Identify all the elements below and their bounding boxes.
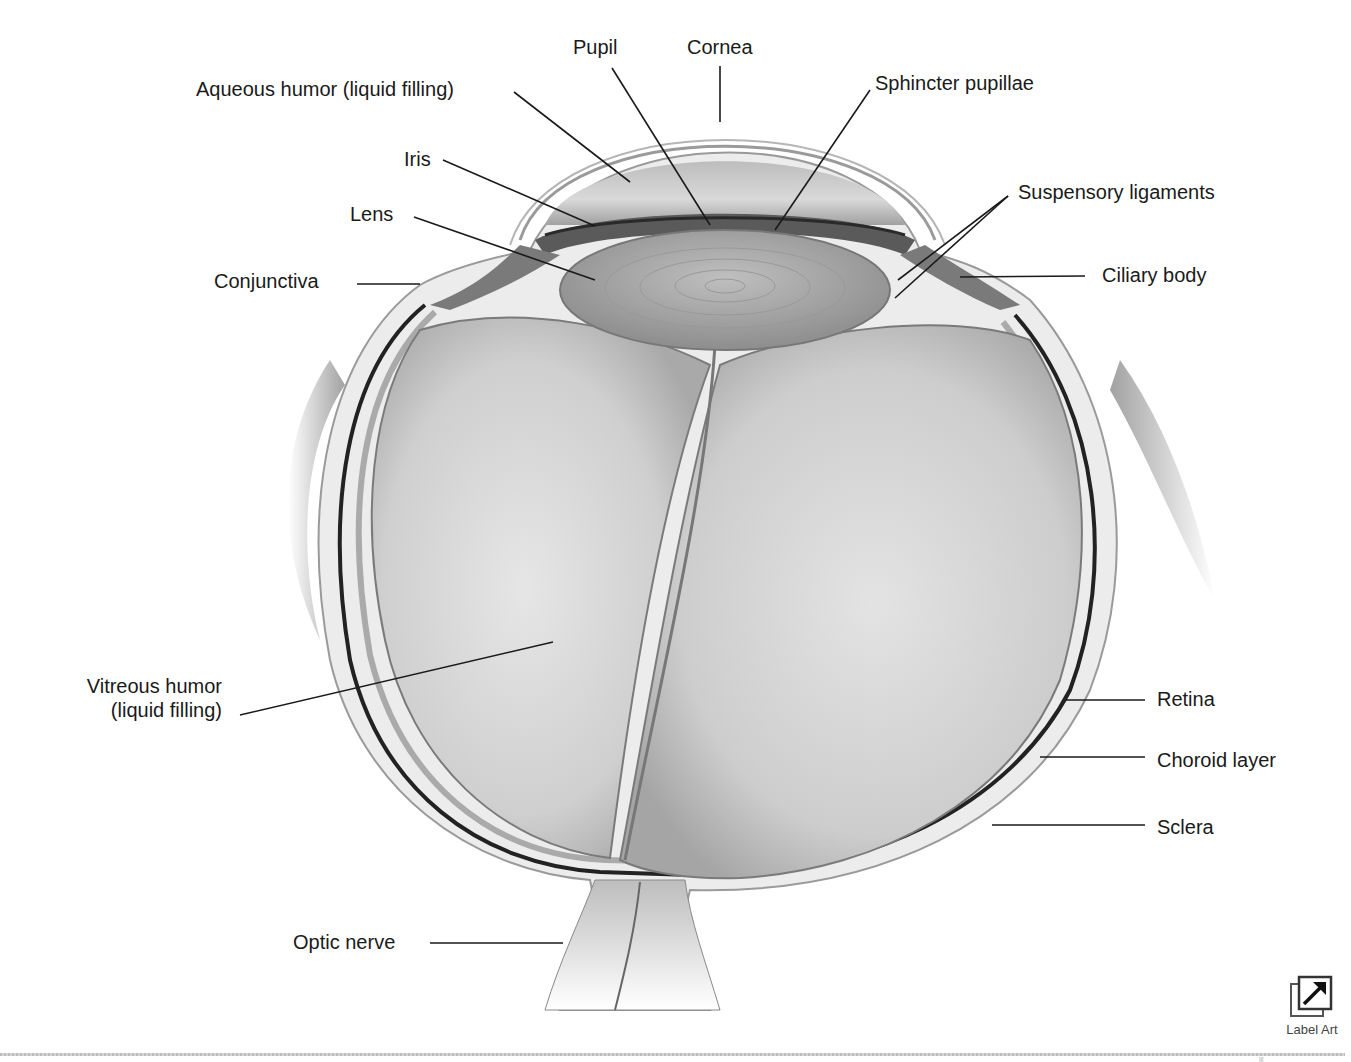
label-optic-nerve: Optic nerve: [293, 930, 395, 954]
label-iris: Iris: [404, 147, 431, 171]
optic-nerve: [545, 880, 720, 1010]
leader-aqueous: [514, 92, 630, 182]
label-cornea: Cornea: [687, 35, 753, 59]
label-conjunctiva: Conjunctiva: [214, 269, 319, 293]
label-art-button[interactable]: Label Art: [1276, 975, 1348, 1047]
muscle-right: [1110, 360, 1215, 600]
label-pupil: Pupil: [573, 35, 617, 59]
label-choroid-layer: Choroid layer: [1157, 748, 1276, 772]
external-link-arrow-icon: [1288, 975, 1336, 1021]
label-vitreous-humor-line1: Vitreous humor: [40, 674, 222, 698]
label-aqueous-humor: Aqueous humor (liquid filling): [196, 77, 454, 101]
label-sphincter-pupillae: Sphincter pupillae: [875, 71, 1034, 95]
label-lens: Lens: [350, 202, 393, 226]
label-vitreous-humor: Vitreous humor (liquid filling): [40, 674, 222, 722]
label-sclera: Sclera: [1157, 815, 1214, 839]
leader-ciliary: [960, 276, 1085, 277]
label-vitreous-humor-line2: (liquid filling): [40, 698, 222, 722]
page-divider: [0, 1053, 1345, 1056]
label-retina: Retina: [1157, 687, 1215, 711]
page-mark: |||: [1259, 1056, 1264, 1062]
label-art-caption: Label Art: [1276, 1022, 1348, 1037]
label-suspensory-ligaments: Suspensory ligaments: [1018, 180, 1215, 204]
leader-iris: [443, 160, 595, 226]
label-ciliary-body: Ciliary body: [1102, 263, 1206, 287]
